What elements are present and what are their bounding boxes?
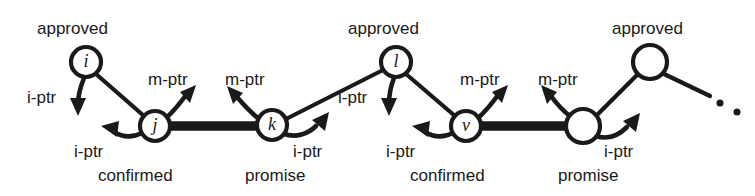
state-label-promise-n6: promise — [558, 167, 618, 184]
pointer-arrow-v-iptr — [425, 132, 453, 136]
pointer-label-j-iptr: i-ptr — [74, 143, 103, 160]
arrow-head-l-iptr — [381, 98, 397, 116]
node-circle-promise-unlabeled[interactable] — [566, 109, 600, 143]
node-promise-unlabeled[interactable] — [566, 109, 600, 143]
pointer-arrow-j-iptr — [114, 132, 142, 136]
edge-i-j — [96, 74, 144, 116]
arrow-head-v-iptr — [412, 121, 430, 137]
pointer-label-i-iptr: i-ptr — [27, 89, 56, 106]
pointer-label-n6-mptr: m-ptr — [538, 71, 578, 88]
pointer-arrow-k-mptr — [237, 97, 259, 119]
ellipsis-dot-2 — [734, 109, 741, 116]
node-circle-approved-unlabeled[interactable] — [633, 45, 667, 79]
node-label-l: l — [393, 51, 398, 71]
pointer-label-k-iptr: i-ptr — [293, 143, 322, 160]
arrow-head-j-iptr — [101, 121, 119, 137]
edge-k-l — [286, 70, 383, 119]
pointer-label-v-mptr: m-ptr — [460, 71, 500, 88]
node-i[interactable]: i — [71, 47, 101, 77]
node-approved-unlabeled[interactable] — [633, 45, 667, 79]
state-label-approved-l: approved — [348, 20, 419, 37]
pointer-label-v-iptr: i-ptr — [386, 143, 415, 160]
node-l[interactable]: l — [381, 47, 411, 77]
edge-l-v — [406, 74, 455, 116]
diagram-canvas: i j k l v — [0, 0, 755, 196]
node-k[interactable]: k — [257, 110, 287, 140]
pointer-label-k-mptr: m-ptr — [225, 71, 265, 88]
node-label-i: i — [83, 51, 88, 71]
pointer-arrow-j-mptr — [166, 95, 186, 118]
node-j[interactable]: j — [140, 111, 170, 141]
state-label-confirmed-v: confirmed — [410, 167, 485, 184]
nodes: i j k l v — [71, 45, 667, 143]
state-label-approved-n7: approved — [612, 20, 683, 37]
pointer-label-l-iptr: i-ptr — [338, 89, 367, 106]
node-label-k: k — [268, 114, 277, 134]
state-label-confirmed-j: confirmed — [98, 167, 173, 184]
pointer-arrow-v-mptr — [478, 95, 498, 118]
state-label-approved-i: approved — [37, 20, 108, 37]
node-label-j: j — [150, 115, 157, 135]
node-label-v: v — [462, 115, 470, 135]
pointer-label-j-mptr: m-ptr — [148, 71, 188, 88]
edge-n7-ellipsis — [662, 73, 710, 96]
arrow-head-i-iptr — [70, 98, 86, 116]
pointer-label-n6-iptr: i-ptr — [604, 143, 633, 160]
pointer-arrow-n6-mptr — [551, 96, 571, 117]
edge-n6-n7 — [596, 74, 638, 116]
state-label-promise-k: promise — [245, 167, 305, 184]
ellipsis-dots — [717, 100, 741, 116]
ellipsis-dot-1 — [717, 100, 724, 107]
node-v[interactable]: v — [451, 111, 481, 141]
